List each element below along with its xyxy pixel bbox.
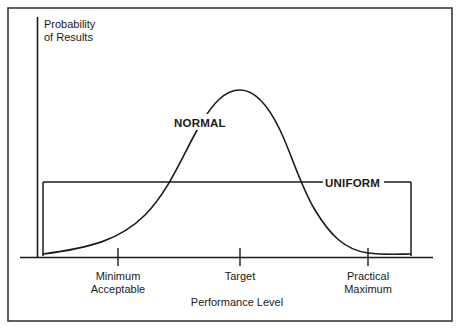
tick-label-minimum: Minimum	[96, 270, 141, 282]
tick-label-acceptable: Acceptable	[91, 283, 145, 295]
uniform-series	[43, 182, 411, 256]
uniform-label: UNIFORM	[325, 177, 380, 189]
x-axis-label: Performance Level	[191, 296, 283, 308]
tick-label-practical: Practical	[347, 270, 389, 282]
y-axis-label-line2: of Results	[44, 31, 93, 43]
tick-label-maximum: Maximum	[344, 283, 392, 295]
tick-label-target: Target	[225, 270, 256, 282]
y-axis-label-line1: Probability	[44, 18, 96, 30]
normal-label: NORMAL	[174, 117, 226, 129]
distribution-diagram: Probability of Results NORMAL UNIFORM Mi…	[0, 0, 458, 329]
